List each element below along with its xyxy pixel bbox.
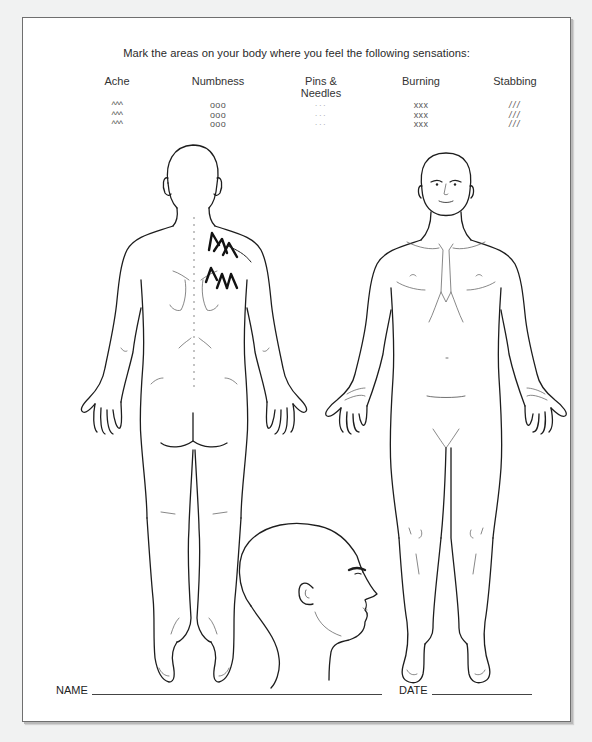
- date-input-line[interactable]: [432, 694, 532, 695]
- ache-mark-upper-back: [206, 268, 237, 288]
- name-label: NAME: [56, 685, 88, 696]
- date-label: DATE: [399, 685, 428, 696]
- body-diagram[interactable]: [23, 18, 572, 723]
- name-field-row: NAME: [56, 685, 382, 696]
- back-view-figure[interactable]: [81, 145, 306, 682]
- back-head-outline: [167, 145, 218, 208]
- date-field-row: DATE: [399, 685, 532, 696]
- front-view-figure[interactable]: [326, 153, 567, 683]
- name-input-line[interactable]: [92, 694, 382, 695]
- pain-diagram-form: Mark the areas on your body where you fe…: [22, 17, 571, 722]
- spine-marks: [193, 217, 195, 387]
- side-head-figure[interactable]: [239, 523, 377, 688]
- ache-mark-neck: [209, 233, 251, 262]
